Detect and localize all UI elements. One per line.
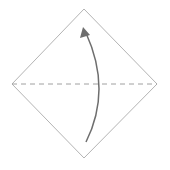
origami-diagram xyxy=(0,0,170,170)
